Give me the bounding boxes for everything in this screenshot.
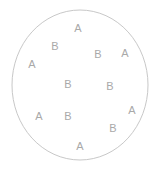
point-label-a: A — [35, 111, 42, 122]
point-label-a: A — [128, 105, 135, 116]
point-label-b: B — [109, 123, 116, 134]
point-label-a: A — [28, 59, 35, 70]
point-label-b: B — [64, 111, 71, 122]
point-label-b: B — [106, 81, 113, 92]
point-label-a: A — [76, 141, 83, 152]
point-label-a: A — [121, 48, 128, 59]
point-label-b: B — [51, 41, 58, 52]
point-label-a: A — [74, 23, 81, 34]
point-label-b: B — [64, 79, 71, 90]
figure-canvas: ABBAABBAABBA — [0, 0, 166, 171]
point-label-b: B — [94, 49, 101, 60]
